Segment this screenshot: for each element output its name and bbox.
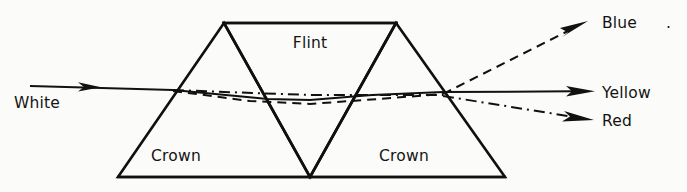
emergent-rays (443, 21, 595, 122)
label-flint: Flint (293, 34, 327, 52)
label-yellow: Yellow (601, 84, 651, 102)
label-blue: Blue (602, 14, 637, 32)
figure-canvas: White Flint Crown Crown Blue . Yellow Re… (0, 0, 687, 192)
red-ray (443, 96, 594, 122)
label-white: White (14, 94, 60, 112)
incident-white-ray (30, 82, 173, 91)
white-ray-line (30, 86, 173, 90)
blue-trailing-dot-mark: . (666, 14, 671, 32)
label-crown-right: Crown (379, 147, 429, 165)
blue-ray-line (443, 30, 570, 94)
yellow-ray-line (443, 91, 572, 92)
yellow-ray (443, 86, 595, 97)
blue-ray (443, 21, 588, 94)
internal-ray-paths (173, 90, 443, 104)
blue-ray-arrowhead (560, 21, 588, 37)
label-crown-left: Crown (151, 147, 201, 165)
red-ray-line (443, 96, 568, 116)
label-red: Red (602, 112, 632, 130)
prism-ray-diagram: White Flint Crown Crown Blue . Yellow Re… (0, 0, 687, 192)
